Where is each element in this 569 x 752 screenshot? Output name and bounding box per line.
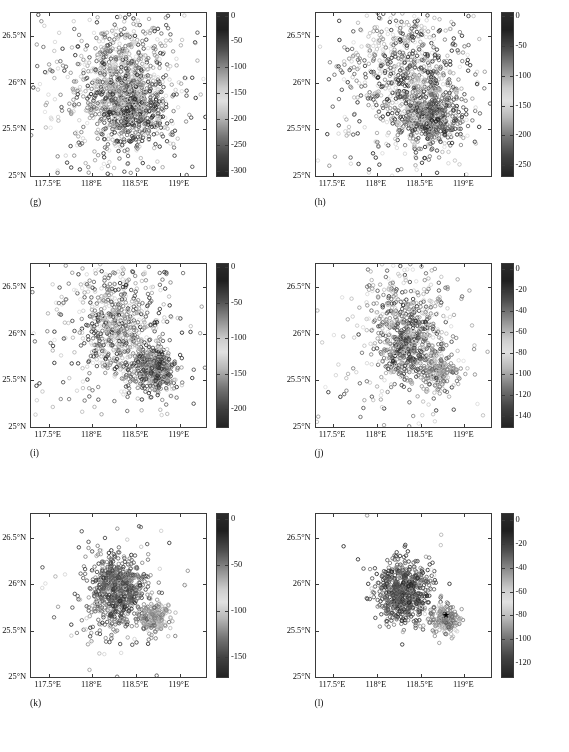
colorbar-tick-mark [217, 41, 220, 42]
colorbar-tick-label: -140 [516, 410, 532, 420]
colorbar [501, 12, 514, 177]
x-tick-mark [180, 514, 181, 517]
x-tick-mark [464, 424, 465, 427]
y-tick-mark [31, 334, 34, 335]
colorbar-tick-mark [225, 657, 228, 658]
x-tick-label: 118.5°E [122, 429, 149, 439]
panel-g: 117.5°E118°E118.5°E119°E25°N25.5°N26°N26… [0, 0, 285, 251]
colorbar-tick-mark [502, 615, 505, 616]
y-tick-label: 26.5°N [2, 281, 26, 291]
y-tick-label: 26°N [8, 328, 26, 338]
colorbar-tick-mark [510, 76, 513, 77]
x-tick-mark [464, 13, 465, 16]
y-tick-label: 25°N [8, 421, 26, 431]
colorbar-tick-label: -60 [516, 326, 527, 336]
x-tick-mark [49, 674, 50, 677]
plot-area [315, 12, 492, 177]
y-tick-mark [316, 584, 319, 585]
panel-i: 117.5°E118°E118.5°E119°E25°N25.5°N26°N26… [0, 251, 285, 502]
colorbar-tick-label: -50 [231, 35, 242, 45]
colorbar-tick-label: 0 [231, 513, 235, 523]
y-tick-mark [316, 538, 319, 539]
y-tick-mark [203, 129, 206, 130]
scatter-canvas [31, 264, 206, 427]
x-tick-label: 118°E [81, 679, 102, 689]
panel-caption: (j) [285, 448, 403, 458]
colorbar-tick-mark [217, 519, 220, 520]
colorbar-tick-label: -50 [516, 40, 527, 50]
x-tick-mark [421, 173, 422, 176]
y-tick-mark [31, 83, 34, 84]
y-tick-mark [488, 36, 491, 37]
colorbar-tick-mark [510, 135, 513, 136]
x-tick-label: 118.5°E [406, 178, 433, 188]
y-tick-label: 25°N [293, 170, 311, 180]
x-tick-label: 117.5°E [34, 429, 61, 439]
y-tick-mark [203, 334, 206, 335]
x-tick-mark [92, 424, 93, 427]
colorbar-tick-mark [510, 165, 513, 166]
colorbar-tick-mark [217, 409, 220, 410]
colorbar-tick-mark [225, 303, 228, 304]
colorbar-tick-label: -150 [231, 651, 247, 661]
x-tick-mark [421, 13, 422, 16]
colorbar-tick-mark [225, 374, 228, 375]
colorbar-tick-mark [502, 520, 505, 521]
x-tick-mark [136, 13, 137, 16]
y-tick-mark [488, 287, 491, 288]
y-tick-label: 25°N [293, 671, 311, 681]
colorbar-tick-mark [217, 657, 220, 658]
x-tick-mark [464, 674, 465, 677]
x-tick-mark [377, 674, 378, 677]
y-tick-mark [31, 538, 34, 539]
colorbar-tick-mark [502, 639, 505, 640]
colorbar-tick-label: 0 [516, 263, 520, 273]
x-tick-label: 117.5°E [319, 679, 346, 689]
colorbar-tick-mark [502, 16, 505, 17]
x-tick-label: 117.5°E [34, 178, 61, 188]
colorbar [216, 263, 229, 428]
y-tick-label: 25°N [8, 170, 26, 180]
x-tick-mark [377, 13, 378, 16]
x-tick-label: 119°E [453, 178, 474, 188]
colorbar-tick-mark [510, 332, 513, 333]
x-tick-mark [333, 264, 334, 267]
colorbar-tick-label: -50 [231, 297, 242, 307]
x-tick-mark [421, 674, 422, 677]
y-tick-mark [488, 584, 491, 585]
colorbar-tick-mark [510, 639, 513, 640]
x-tick-mark [92, 674, 93, 677]
colorbar-tick-mark [510, 353, 513, 354]
y-tick-mark [488, 380, 491, 381]
x-tick-mark [92, 264, 93, 267]
y-tick-mark [488, 427, 491, 428]
colorbar-tick-mark [510, 374, 513, 375]
y-tick-label: 26°N [8, 578, 26, 588]
colorbar-tick-label: -100 [516, 70, 532, 80]
x-tick-mark [136, 514, 137, 517]
x-tick-mark [49, 13, 50, 16]
colorbar-tick-label: -80 [516, 609, 527, 619]
panel-caption: (l) [285, 698, 403, 708]
x-tick-mark [180, 674, 181, 677]
epicenter-star-icon: ★ [442, 610, 450, 619]
figure-grid: 117.5°E118°E118.5°E119°E25°N25.5°N26°N26… [0, 0, 569, 752]
colorbar-tick-label: -50 [231, 559, 242, 569]
x-tick-mark [92, 13, 93, 16]
colorbar-tick-mark [502, 544, 505, 545]
x-tick-mark [377, 424, 378, 427]
colorbar-tick-mark [225, 93, 228, 94]
colorbar-gradient [502, 13, 513, 176]
y-tick-mark [203, 427, 206, 428]
colorbar-tick-mark [510, 395, 513, 396]
colorbar-tick-mark [225, 338, 228, 339]
colorbar-tick-label: 0 [516, 10, 520, 20]
y-tick-mark [203, 83, 206, 84]
y-tick-mark [31, 176, 34, 177]
colorbar-tick-mark [510, 615, 513, 616]
colorbar-tick-mark [217, 16, 220, 17]
panel-h: 117.5°E118°E118.5°E119°E25°N25.5°N26°N26… [285, 0, 569, 251]
x-tick-label: 118.5°E [122, 178, 149, 188]
panel-l: ★117.5°E118°E118.5°E119°E25°N25.5°N26°N2… [285, 501, 569, 752]
x-tick-mark [136, 424, 137, 427]
